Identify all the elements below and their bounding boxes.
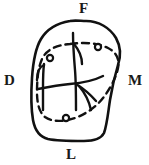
label-lingual: L [66,147,76,162]
label-facial: F [79,1,88,16]
tooth-diagram-svg [0,0,149,165]
marker-upper-left-icon [47,55,53,61]
groove-transverse [38,76,103,89]
marker-lower-icon [63,115,69,121]
label-mesial: M [128,73,142,88]
label-distal: D [4,73,15,88]
groove-distal-vertical [43,64,44,110]
tooth-diagram-figure: F D M L [0,0,149,165]
marker-upper-right-icon [95,44,101,50]
